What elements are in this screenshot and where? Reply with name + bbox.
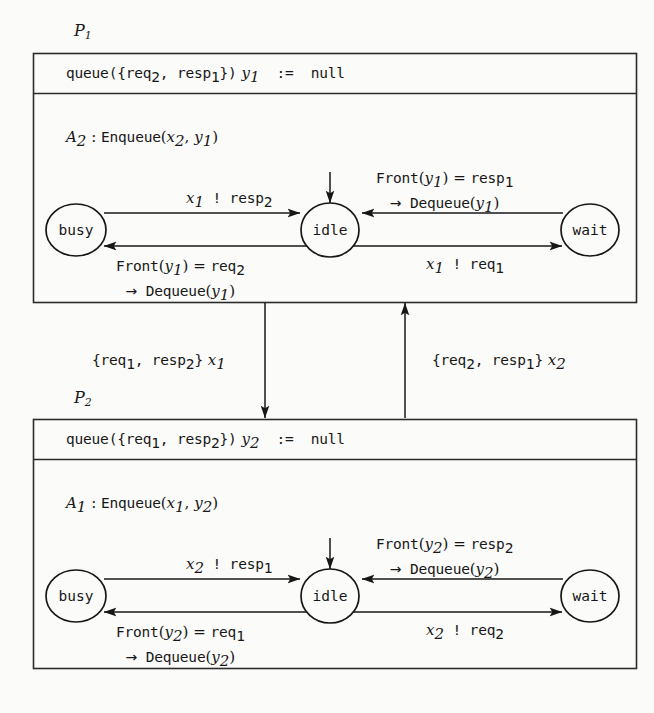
process-tag-p2: P2 <box>74 389 92 410</box>
p2-transition-label-idle-wait: x2 ! req2 <box>426 622 504 643</box>
p2-queue-declaration: queue({req1, resp2}) y2 := null <box>66 431 345 452</box>
p2-transition-label-wait-idle-line2: → Dequeue(y2) <box>376 559 513 583</box>
figure-canvas: P1 queue({req2, resp1}) y1 := null A2 : … <box>0 0 654 713</box>
p2-transition-label-idle-busy-line2: → Dequeue(y2) <box>116 647 245 671</box>
p1-transition-label-idle-busy: Front(y1) = req2 → Dequeue(y1) <box>116 256 245 305</box>
p2-transition-label-idle-busy: Front(y2) = req1 → Dequeue(y2) <box>116 622 245 671</box>
p2-transition-label-wait-idle: Front(y2) = resp2 → Dequeue(y2) <box>376 534 513 583</box>
p1-transition-label-wait-idle-line2: → Dequeue(y1) <box>376 193 513 217</box>
p2-state-label-busy[interactable]: busy <box>46 588 106 604</box>
channel-label-x2: {req2, resp1} x2 <box>432 352 566 373</box>
p1-state-label-wait[interactable]: wait <box>560 222 620 238</box>
p2-action-declaration: A1 : Enqueue(x1, y2) <box>66 494 218 516</box>
p1-queue-declaration: queue({req2, resp1}) y1 := null <box>66 65 345 86</box>
channel-connectors-vector <box>265 303 405 418</box>
process-tag-p1: P1 <box>74 22 92 43</box>
channel-label-x1: {req1, resp2} x1 <box>92 352 226 373</box>
p2-transition-label-wait-idle-line1: Front(y2) = resp2 <box>376 534 513 559</box>
p1-transitions-vector <box>46 172 619 257</box>
p1-transition-label-idle-busy-line2: → Dequeue(y1) <box>116 281 245 305</box>
p1-state-label-busy[interactable]: busy <box>46 222 106 238</box>
p1-transition-label-busy-idle: x1 ! resp2 <box>186 190 272 211</box>
p1-state-label-idle[interactable]: idle <box>300 222 360 238</box>
p1-transition-label-idle-wait: x1 ! req1 <box>426 256 504 277</box>
p1-transition-label-idle-busy-line1: Front(y1) = req2 <box>116 256 245 281</box>
p2-transition-label-busy-idle: x2 ! resp1 <box>186 556 272 577</box>
p2-transitions-vector <box>46 538 619 623</box>
p2-state-label-wait[interactable]: wait <box>560 588 620 604</box>
p1-transition-label-wait-idle: Front(y1) = resp1 → Dequeue(y1) <box>376 168 513 217</box>
p2-state-label-idle[interactable]: idle <box>300 588 360 604</box>
p2-transition-label-idle-busy-line1: Front(y2) = req1 <box>116 622 245 647</box>
p1-transition-label-wait-idle-line1: Front(y1) = resp1 <box>376 168 513 193</box>
p1-action-declaration: A2 : Enqueue(x2, y1) <box>66 128 218 150</box>
